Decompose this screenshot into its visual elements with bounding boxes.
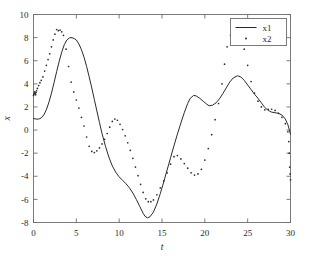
series-marker xyxy=(35,94,37,96)
series-marker xyxy=(261,106,263,108)
series-marker xyxy=(278,112,280,114)
series-marker xyxy=(218,103,220,105)
series-marker xyxy=(40,80,42,82)
series-marker xyxy=(37,88,39,90)
series-marker xyxy=(114,118,116,120)
series-marker xyxy=(204,159,206,161)
series-marker xyxy=(65,48,67,50)
series-marker xyxy=(56,29,58,31)
series-marker xyxy=(271,108,273,110)
x-axis-title: t xyxy=(161,242,164,252)
series-marker xyxy=(226,46,228,48)
series-marker xyxy=(145,198,147,200)
series-marker xyxy=(54,33,56,35)
series-marker xyxy=(117,119,119,121)
series-marker xyxy=(135,166,137,168)
series-marker xyxy=(132,158,134,160)
series-line-x1 xyxy=(34,38,291,218)
y-tick-label: 4 xyxy=(24,79,29,89)
series-marker xyxy=(288,152,290,154)
series-marker xyxy=(159,187,161,189)
legend-marker-dot-x2 xyxy=(245,38,247,40)
series-marker xyxy=(106,133,108,135)
series-marker xyxy=(39,82,41,84)
series-marker xyxy=(163,180,165,182)
series-marker xyxy=(88,145,90,147)
series-marker xyxy=(289,166,291,168)
series-marker xyxy=(104,138,106,140)
series-marker xyxy=(247,64,249,66)
series-marker xyxy=(254,92,256,94)
chart-plot: 051015202530-8-6-4-20246810txx1x2 xyxy=(0,0,309,259)
series-marker xyxy=(173,156,175,158)
series-marker xyxy=(201,168,203,170)
series-marker xyxy=(140,184,142,186)
series-marker xyxy=(91,151,93,153)
series-marker xyxy=(288,141,290,143)
series-marker xyxy=(274,110,276,112)
y-tick-label: 8 xyxy=(24,33,29,43)
series-marker xyxy=(38,85,40,87)
series-marker xyxy=(147,201,149,203)
series-marker xyxy=(267,108,269,110)
series-marker xyxy=(119,123,121,125)
x-tick-label: 25 xyxy=(243,228,253,238)
y-tick-label: -6 xyxy=(21,195,29,205)
series-marker xyxy=(99,147,101,149)
series-marker xyxy=(46,64,48,66)
series-marker xyxy=(109,126,111,128)
series-marker xyxy=(93,152,95,154)
series-marker xyxy=(63,34,65,36)
series-marker xyxy=(111,121,113,123)
series-marker xyxy=(243,48,245,50)
y-tick-label: -8 xyxy=(21,218,29,228)
series-marker xyxy=(194,174,196,176)
y-axis-title: x xyxy=(2,116,12,122)
x-tick-label: 10 xyxy=(115,228,125,238)
series-marker xyxy=(81,116,83,118)
series-marker xyxy=(287,131,289,133)
legend-label-x2: x2 xyxy=(263,34,272,44)
series-marker xyxy=(150,201,152,203)
series-marker xyxy=(47,59,49,61)
series-marker xyxy=(183,163,185,165)
series-marker xyxy=(86,136,88,138)
series-marker xyxy=(101,143,103,145)
series-marker xyxy=(285,123,287,125)
series-marker xyxy=(51,46,53,48)
series-marker xyxy=(187,167,189,169)
series-marker xyxy=(207,148,209,150)
x-tick-label: 30 xyxy=(286,228,296,238)
series-marker xyxy=(78,107,80,109)
series-marker xyxy=(44,70,46,72)
series-marker xyxy=(142,192,144,194)
series-marker xyxy=(197,173,199,175)
series-marker xyxy=(190,172,192,174)
series-markers-x2 xyxy=(33,29,292,203)
series-marker xyxy=(281,116,283,118)
series-marker xyxy=(289,173,291,175)
series-marker xyxy=(257,100,259,102)
series-marker xyxy=(96,150,98,152)
x-tick-label: 0 xyxy=(31,228,36,238)
series-marker xyxy=(59,29,61,31)
series-marker xyxy=(177,155,179,157)
series-marker xyxy=(129,149,131,151)
series-marker xyxy=(122,129,124,131)
series-marker xyxy=(36,90,38,92)
series-marker xyxy=(70,81,72,83)
series-marker xyxy=(52,39,54,41)
legend-label-x1: x1 xyxy=(263,23,272,33)
series-marker xyxy=(61,31,63,33)
series-marker xyxy=(137,175,139,177)
series-marker xyxy=(68,66,70,68)
x-tick-label: 15 xyxy=(158,228,168,238)
series-marker xyxy=(264,109,266,111)
legend-box[interactable] xyxy=(231,19,287,46)
series-marker xyxy=(211,134,213,136)
y-tick-label: 10 xyxy=(20,10,30,20)
series-marker xyxy=(156,194,158,196)
x-tick-label: 20 xyxy=(200,228,210,238)
series-marker xyxy=(224,63,226,65)
series-marker xyxy=(124,135,126,137)
